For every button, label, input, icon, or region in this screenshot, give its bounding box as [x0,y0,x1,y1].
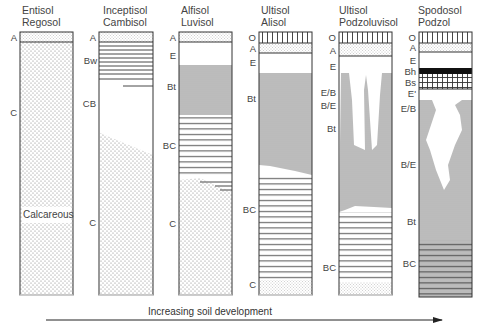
horizon-label: A [306,46,336,56]
horizon-label: Bt [226,94,256,104]
horizon-label: BC [306,263,336,273]
profile-title-spodosol: SpodosolPodzol [418,4,462,28]
horizon-label: O [226,33,256,43]
profile-title-entisol: EntisolRegosol [22,4,61,28]
horizon-label: CB [66,99,96,109]
horizon-label: Bs [386,78,416,88]
horizon-label: A [146,33,176,43]
horizon-label: Bh [386,67,416,77]
profile-title-alfisol: AlfisolLuvisol [181,4,214,28]
horizon-label: E/B [306,88,336,98]
horizon-label: B/E [306,101,336,111]
profile-alfisol [179,32,232,295]
horizon-label: BC [386,259,416,269]
horizon-label: A [66,33,96,43]
horizon-label: Bt [386,217,416,227]
horizon-label: E [146,51,176,61]
profile-spodosol [419,32,472,297]
horizon-label: E [226,58,256,68]
horizon-label: C [0,108,17,118]
profile-entisol [20,32,73,295]
profile-ultisol-podzoluvisol [339,32,392,295]
horizon-label: E [306,62,336,72]
horizon-label: C [226,280,256,290]
horizon-label: A [0,33,17,43]
horizon-label: Bw [67,56,97,66]
horizon-label: C [146,219,176,229]
horizon-label: E [386,56,416,66]
horizon-label: BC [146,141,176,151]
profile-title-ultisol-alisol: UltisolAlisol [261,4,290,28]
horizon-label: A [226,44,256,54]
arrow-caption: Increasing soil development [148,306,272,317]
horizon-label: BC [226,205,256,215]
horizon-label: A [386,43,416,53]
horizon-label: E/B [386,104,416,114]
profile-title-inceptisol: InceptisolCambisol [103,4,147,28]
horizon-label: E' [386,89,416,99]
horizon-label: Bt [146,82,176,92]
horizon-label: B/E [386,160,416,170]
horizon-label: C [66,218,96,228]
profile-inceptisol [99,32,153,295]
profile-title-ultisol-podzoluvisol: UltisolPodzoluvisol [339,4,398,28]
horizon-label: O [306,33,336,43]
horizon-label: Bt [306,124,336,134]
profile-ultisol-alisol [259,32,312,295]
